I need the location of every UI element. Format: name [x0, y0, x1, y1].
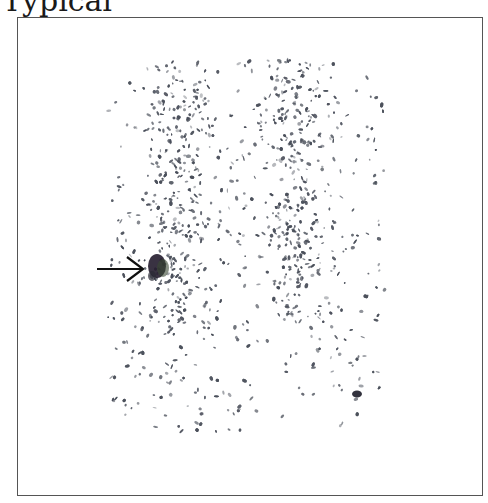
hot-spot	[148, 254, 169, 281]
scan-dots	[106, 57, 387, 433]
small-spot	[352, 391, 362, 398]
scan-image	[0, 0, 488, 503]
arrow-right-icon	[95, 254, 147, 284]
